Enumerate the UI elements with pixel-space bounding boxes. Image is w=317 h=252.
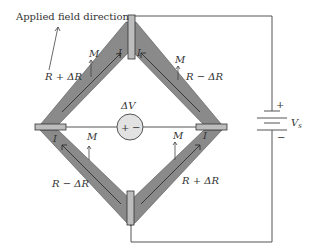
bottom-left-magnetization: M (86, 131, 98, 142)
bottom-left-resistance: R − ΔR (51, 178, 89, 189)
applied-field-arrow-icon (49, 27, 60, 70)
bottom-right-resistance: R + ΔR (181, 175, 219, 186)
voltmeter-plus: + (121, 122, 129, 133)
contact-bottom (127, 191, 134, 225)
contact-top (128, 15, 135, 59)
top-left-magnetization: M (88, 48, 100, 59)
voltmeter-minus: − (132, 122, 140, 133)
applied-field-label: Applied field direction (15, 11, 129, 22)
bottom-right-magnetization: M (172, 130, 184, 141)
battery-icon (257, 111, 287, 130)
wheatstone-bridge-diagram: + − Vs + − ΔV Applied field direction (0, 0, 317, 252)
contact-left (35, 124, 66, 130)
top-left-resistance: R + ΔR (44, 71, 82, 82)
source-minus: − (277, 132, 285, 143)
source-plus: + (276, 99, 284, 110)
voltmeter-label: ΔV (120, 100, 137, 111)
contact-right (196, 124, 227, 130)
source-label: Vs (291, 117, 302, 130)
top-right-resistance: R − ΔR (185, 71, 223, 82)
top-right-magnetization: M (174, 54, 186, 65)
